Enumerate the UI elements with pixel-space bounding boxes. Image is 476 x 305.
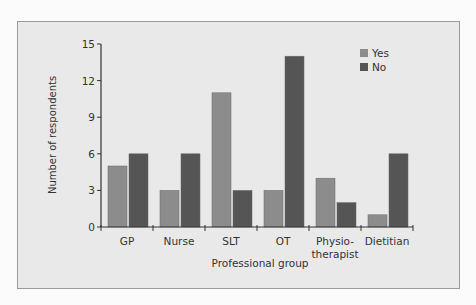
bar-yes-gp <box>108 166 127 227</box>
y-tick-label: 12 <box>82 75 95 87</box>
bar-no-gp <box>129 154 148 227</box>
x-tick-label: Nurse <box>164 235 195 247</box>
y-tick-label: 9 <box>88 111 95 123</box>
legend-swatch-no <box>360 63 368 71</box>
legend-swatch-yes <box>360 49 368 57</box>
bar-no-slt <box>233 190 252 227</box>
y-tick-label: 15 <box>82 38 95 50</box>
legend-label-no: No <box>372 61 386 73</box>
bar-no-nurse <box>181 154 200 227</box>
x-axis-label: Professional group <box>212 257 309 269</box>
bar-yes-physiotherapist <box>316 178 335 227</box>
y-tick-label: 6 <box>88 148 95 160</box>
x-tick-label: Dietitian <box>365 235 410 247</box>
legend-label-yes: Yes <box>371 47 389 59</box>
bar-no-dietitian <box>389 154 408 227</box>
bar-yes-dietitian <box>368 215 387 227</box>
y-tick-label: 3 <box>88 184 95 196</box>
bar-yes-slt <box>212 93 231 227</box>
x-tick-label: OT <box>276 235 291 247</box>
bar-no-physiotherapist <box>337 203 356 227</box>
x-tick-label: SLT <box>222 235 240 247</box>
bar-yes-nurse <box>160 190 179 227</box>
x-tick-label: Physio- <box>316 235 354 247</box>
y-axis-label: Number of respondents <box>47 76 58 194</box>
bar-no-ot <box>285 56 304 227</box>
bar-yes-ot <box>264 190 283 227</box>
x-tick-label: therapist <box>311 248 358 260</box>
bar-chart: 03691215GPNurseSLTOTPhysio-therapistDiet… <box>0 0 476 305</box>
x-tick-label: GP <box>120 235 134 247</box>
y-tick-label: 0 <box>88 221 95 233</box>
